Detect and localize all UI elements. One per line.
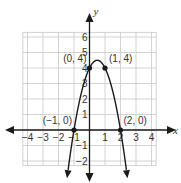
y-tick-label: 6 (82, 32, 88, 43)
arrow-down-icon (86, 173, 94, 182)
parabola-path (68, 60, 126, 170)
point-label: (2, 0) (124, 115, 147, 126)
x-tick-label: −3 (37, 132, 49, 143)
data-point (71, 127, 76, 132)
curve-arrow-left-icon (65, 170, 72, 178)
arrow-up-icon (86, 13, 94, 22)
data-point (118, 127, 123, 132)
x-tick-label: −4 (22, 132, 34, 143)
y-tick-label: 1 (82, 109, 88, 120)
data-point (87, 65, 92, 70)
axes (5, 13, 176, 182)
y-tick-label: 2 (82, 94, 88, 105)
point-label: (1, 4) (109, 53, 132, 64)
y-tick-label: −2 (76, 156, 88, 167)
point-label: (0, 4) (63, 53, 86, 64)
x-tick-label: 1 (102, 132, 108, 143)
coordinate-plane: −4−3−2−11234−2−1123456 (−1, 0)(0, 4)(1, … (0, 0, 181, 183)
data-point (102, 65, 107, 70)
y-tick-label: −1 (76, 140, 88, 151)
y-axis-label: y (93, 5, 99, 17)
x-tick-label: 4 (149, 132, 155, 143)
x-axis-label: x (172, 124, 178, 136)
x-tick-label: −2 (53, 132, 65, 143)
point-label: (−1, 0) (43, 115, 72, 126)
curve-arrow-right-icon (123, 170, 130, 178)
x-tick-label: 3 (133, 132, 139, 143)
arrow-left-icon (5, 126, 14, 134)
parabola-curve (65, 60, 130, 178)
